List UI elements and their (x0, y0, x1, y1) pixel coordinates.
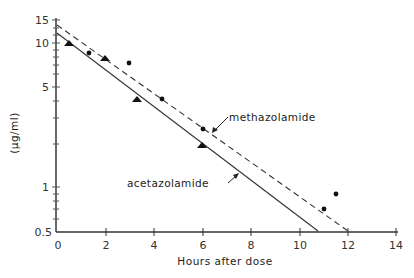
y-tick-0.5: 0.5 (35, 226, 53, 239)
data-point (160, 97, 165, 102)
x-tick-6: 6 (200, 239, 207, 252)
y-tick-10: 10 (35, 37, 49, 50)
x-tick-12: 12 (341, 239, 355, 252)
y-tick-5: 5 (42, 81, 49, 94)
x-tick-2: 2 (103, 239, 110, 252)
x-tick-4: 4 (151, 239, 158, 252)
x-tick-8: 8 (248, 239, 255, 252)
data-point (87, 51, 92, 56)
data-point (127, 61, 132, 66)
data-point (322, 207, 327, 212)
data-point (201, 127, 206, 132)
y-tick-15: 15 (35, 14, 49, 27)
chart: 15 10 5 1 0.5 0 2 4 6 8 10 12 14 Hours a… (0, 0, 414, 278)
methazolamide-label: methazolamide (229, 111, 316, 123)
data-point (334, 192, 339, 197)
y-tick-1: 1 (42, 181, 49, 194)
x-tick-0: 0 (55, 239, 62, 252)
x-tick-14: 14 (389, 239, 403, 252)
x-tick-10: 10 (293, 239, 307, 252)
data-point (64, 40, 74, 46)
y-axis-title: (μg/ml) (8, 112, 20, 154)
acetazolamide-label: acetazolamide (127, 177, 209, 189)
acetazolamide-fit-line (57, 33, 318, 231)
acetazolamide-points (64, 40, 207, 148)
x-axis-title: Hours after dose (177, 255, 272, 267)
